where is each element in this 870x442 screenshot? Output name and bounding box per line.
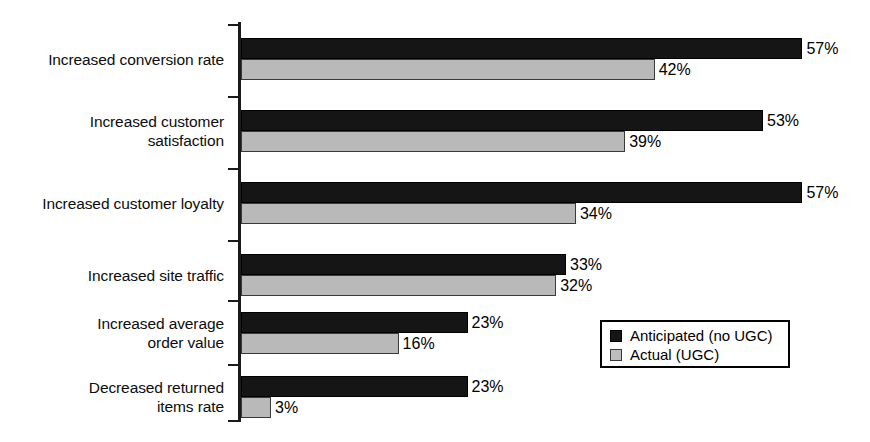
- bar-value-label: 42%: [655, 62, 691, 78]
- bar-row: 39%: [241, 131, 705, 152]
- bar-actual: [241, 59, 655, 80]
- legend-item-actual: Actual (UGC): [610, 345, 782, 364]
- legend-label-anticipated: Anticipated (no UGC): [630, 328, 773, 343]
- bar-value-label: 3%: [271, 400, 298, 416]
- bar-actual: [241, 275, 556, 296]
- category-label: Increased average order value: [4, 314, 224, 352]
- axis-tick: [228, 300, 239, 302]
- category-label: Increased customer satisfaction: [4, 112, 224, 150]
- bar-anticipated: [241, 38, 802, 59]
- axis-tick: [228, 24, 239, 26]
- bar-chart: Increased conversion rate57%42%Increased…: [0, 0, 870, 442]
- bar-value-label: 23%: [468, 379, 504, 395]
- bar-value-label: 57%: [802, 185, 838, 201]
- bar-row: 16%: [241, 333, 479, 354]
- bar-anticipated: [241, 376, 468, 397]
- bar-row: 34%: [241, 203, 656, 224]
- bar-anticipated: [241, 312, 468, 333]
- bar-value-label: 33%: [566, 257, 602, 273]
- bar-row: 23%: [241, 376, 548, 397]
- bar-row: 23%: [241, 312, 548, 333]
- bar-row: 57%: [241, 38, 870, 59]
- gray-square-swatch: [610, 349, 622, 361]
- bar-anticipated: [241, 182, 802, 203]
- bar-actual: [241, 397, 271, 418]
- chart-legend: Anticipated (no UGC) Actual (UGC): [600, 320, 790, 368]
- bar-value-label: 32%: [556, 278, 592, 294]
- category-label: Increased customer loyalty: [4, 194, 224, 213]
- axis-tick: [228, 420, 239, 422]
- bar-actual: [241, 131, 625, 152]
- bar-row: 57%: [241, 182, 870, 203]
- bar-value-label: 23%: [468, 315, 504, 331]
- bar-actual: [241, 203, 576, 224]
- axis-tick: [228, 96, 239, 98]
- bar-row: 42%: [241, 59, 735, 80]
- bar-row: 53%: [241, 110, 843, 131]
- category-label: Increased conversion rate: [4, 50, 224, 69]
- bar-actual: [241, 333, 399, 354]
- bar-row: 32%: [241, 275, 636, 296]
- bar-value-label: 53%: [763, 113, 799, 129]
- axis-tick: [228, 364, 239, 366]
- category-label: Decreased returned items rate: [4, 378, 224, 416]
- bar-row: 3%: [241, 397, 351, 418]
- bar-row: 33%: [241, 254, 646, 275]
- black-square-swatch: [610, 330, 622, 342]
- legend-label-actual: Actual (UGC): [630, 347, 719, 362]
- category-label: Increased site traffic: [4, 266, 224, 285]
- axis-tick: [228, 240, 239, 242]
- bar-anticipated: [241, 254, 566, 275]
- bar-value-label: 39%: [625, 134, 661, 150]
- legend-item-anticipated: Anticipated (no UGC): [610, 326, 782, 345]
- bar-value-label: 57%: [802, 41, 838, 57]
- axis-tick: [228, 168, 239, 170]
- bar-anticipated: [241, 110, 763, 131]
- bar-value-label: 16%: [399, 336, 435, 352]
- bar-value-label: 34%: [576, 206, 612, 222]
